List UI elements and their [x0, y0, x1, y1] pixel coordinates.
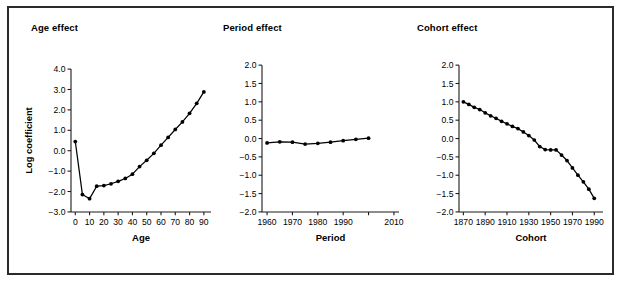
- svg-text:−1.5: −1.5: [437, 189, 454, 199]
- data-point: [521, 130, 525, 134]
- data-point: [489, 114, 493, 118]
- data-point: [516, 127, 520, 131]
- data-point: [538, 145, 542, 149]
- data-point: [95, 184, 99, 188]
- data-point: [500, 119, 504, 123]
- svg-text:1990: 1990: [585, 217, 604, 227]
- data-point: [109, 182, 113, 186]
- data-point: [592, 196, 596, 200]
- data-point: [329, 140, 333, 144]
- svg-text:1870: 1870: [454, 217, 473, 227]
- svg-text:1930: 1930: [519, 217, 538, 227]
- data-point: [138, 165, 142, 169]
- data-point: [505, 122, 509, 126]
- figure-frame: Age effect −3.0−2.0−1.00.01.02.03.04.001…: [7, 6, 614, 275]
- svg-text:60: 60: [156, 217, 166, 227]
- svg-text:1.0: 1.0: [54, 125, 66, 135]
- svg-text:1910: 1910: [497, 217, 516, 227]
- panel-period-effect: Period effect −2.0−1.5−1.0−0.50.00.51.01…: [217, 8, 409, 273]
- svg-text:1.5: 1.5: [245, 79, 257, 89]
- svg-text:1980: 1980: [308, 217, 327, 227]
- svg-text:1950: 1950: [541, 217, 560, 227]
- svg-text:50: 50: [142, 217, 152, 227]
- data-point: [571, 166, 575, 170]
- svg-text:0: 0: [73, 217, 78, 227]
- svg-text:1890: 1890: [476, 217, 495, 227]
- data-point: [367, 136, 371, 140]
- data-point: [472, 105, 476, 109]
- svg-text:−2.0: −2.0: [240, 207, 257, 217]
- data-point: [341, 139, 345, 143]
- data-point: [166, 136, 170, 140]
- data-point: [123, 177, 127, 181]
- data-point: [581, 180, 585, 184]
- svg-text:20: 20: [99, 217, 109, 227]
- svg-text:1.5: 1.5: [442, 79, 454, 89]
- data-point: [483, 111, 487, 115]
- svg-text:−3.0: −3.0: [49, 207, 66, 217]
- svg-text:1.0: 1.0: [245, 97, 257, 107]
- svg-text:4.0: 4.0: [54, 64, 66, 74]
- data-point: [554, 148, 558, 152]
- svg-text:1970: 1970: [563, 217, 582, 227]
- data-point: [102, 184, 106, 188]
- data-point: [576, 173, 580, 177]
- svg-text:40: 40: [128, 217, 138, 227]
- data-point: [354, 137, 358, 141]
- data-point: [145, 158, 149, 162]
- series-line: [463, 102, 594, 199]
- data-point: [461, 100, 465, 104]
- x-axis-title: Period: [316, 233, 346, 244]
- svg-text:0.0: 0.0: [442, 134, 454, 144]
- data-point: [88, 197, 92, 201]
- data-point: [73, 140, 77, 144]
- svg-text:0.5: 0.5: [442, 115, 454, 125]
- panel-cohort-effect: Cohort effect −2.0−1.5−1.0−0.50.00.51.01…: [407, 8, 612, 273]
- age-effect-plot: −3.0−2.0−1.00.01.02.03.04.00102030405060…: [15, 8, 220, 273]
- svg-text:−0.5: −0.5: [240, 152, 257, 162]
- svg-text:0.0: 0.0: [245, 134, 257, 144]
- svg-text:90: 90: [199, 217, 209, 227]
- svg-text:2.0: 2.0: [54, 105, 66, 115]
- svg-text:−0.5: −0.5: [437, 152, 454, 162]
- svg-text:10: 10: [85, 217, 95, 227]
- svg-text:−2.0: −2.0: [437, 207, 454, 217]
- x-axis-title: Age: [132, 233, 150, 244]
- data-point: [195, 101, 199, 105]
- data-point: [543, 148, 547, 152]
- data-point: [303, 142, 307, 146]
- data-point: [560, 153, 564, 157]
- panel-age-effect: Age effect −3.0−2.0−1.00.01.02.03.04.001…: [15, 8, 220, 273]
- series-line: [75, 92, 204, 199]
- svg-text:2010: 2010: [384, 217, 403, 227]
- svg-text:2.0: 2.0: [442, 60, 454, 70]
- data-point: [188, 111, 192, 115]
- svg-text:−1.0: −1.0: [240, 170, 257, 180]
- data-point: [278, 140, 282, 144]
- y-axis-title: Log coefficient: [23, 106, 34, 173]
- data-point: [202, 90, 206, 94]
- data-point: [527, 134, 531, 138]
- data-point: [173, 128, 177, 132]
- svg-text:1970: 1970: [283, 217, 302, 227]
- svg-text:1960: 1960: [258, 217, 277, 227]
- data-point: [549, 148, 553, 152]
- data-point: [152, 151, 156, 155]
- svg-text:1990: 1990: [334, 217, 353, 227]
- svg-text:3.0: 3.0: [54, 85, 66, 95]
- svg-text:2.0: 2.0: [245, 60, 257, 70]
- svg-text:−1.0: −1.0: [49, 166, 66, 176]
- svg-text:0.5: 0.5: [245, 115, 257, 125]
- data-point: [159, 143, 163, 147]
- data-point: [511, 125, 515, 129]
- svg-text:1.0: 1.0: [442, 97, 454, 107]
- data-point: [81, 193, 85, 197]
- data-point: [532, 138, 536, 142]
- cohort-effect-plot: −2.0−1.5−1.0−0.50.00.51.01.52.0187018901…: [407, 8, 612, 273]
- data-point: [265, 141, 269, 145]
- data-point: [467, 103, 471, 107]
- data-point: [131, 172, 135, 176]
- svg-text:70: 70: [171, 217, 181, 227]
- data-point: [587, 187, 591, 191]
- period-effect-plot: −2.0−1.5−1.0−0.50.00.51.01.52.0196019701…: [217, 8, 409, 273]
